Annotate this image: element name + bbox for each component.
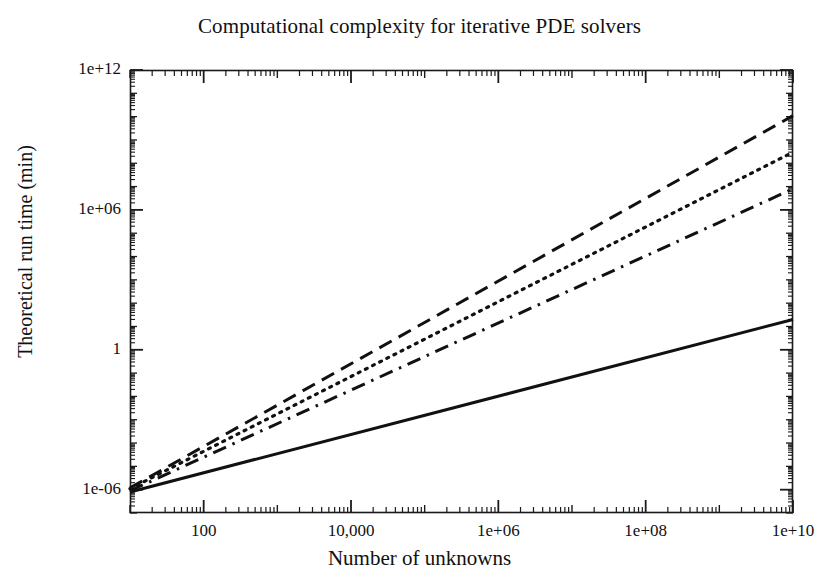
series-line-dotted: [130, 152, 793, 489]
series-line-solid: [130, 319, 793, 491]
data-series-group: [130, 116, 793, 492]
series-line-dashdot: [130, 189, 793, 491]
figure-canvas: Computational complexity for iterative P…: [0, 0, 839, 588]
plot-svg: [0, 0, 839, 588]
axis-ticks: [130, 70, 793, 513]
plot-frame: [131, 71, 793, 513]
series-line-dashed: [130, 116, 793, 488]
